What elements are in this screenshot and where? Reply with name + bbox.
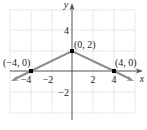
point-right-label: (4, 0): [115, 57, 137, 69]
point-left-label: (−4, 0): [3, 57, 30, 69]
tick-4: 4: [112, 74, 117, 85]
y-axis-label: y: [63, 0, 69, 10]
point-top-label: (0, 2): [74, 39, 96, 51]
ytick-neg2: −2: [58, 87, 69, 98]
tick-neg2: −2: [43, 74, 54, 85]
point-right: [112, 69, 116, 73]
y-axis: [70, 3, 75, 120]
tick-2: 2: [91, 74, 96, 85]
graph-canvas: −4 −2 2 4 4 −2 x y (−4, 0) (0, 2) (4, 0): [0, 0, 147, 130]
x-axis-label: x: [139, 73, 145, 84]
tick-neg4: −4: [21, 74, 32, 85]
ytick-4: 4: [64, 25, 69, 36]
point-left: [29, 69, 33, 73]
